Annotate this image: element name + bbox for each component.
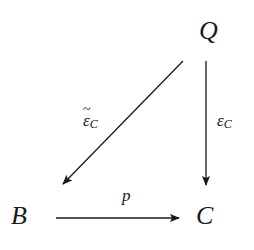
label-eps-tilde-c: ~ ε C [83,112,98,130]
subscript-c: C [224,117,232,131]
subscript-c: C [90,117,98,131]
commutative-diagram: Q B C ~ ε C εC p [0,0,254,250]
epsilon-symbol: ε [217,111,224,130]
tilde-accent: ~ [83,103,91,117]
tilde-epsilon: ~ ε [83,112,90,129]
node-c: C [196,203,213,229]
arrow-q-to-b [63,61,183,184]
label-p: p [122,187,131,204]
node-q: Q [199,18,218,44]
label-eps-c: εC [217,112,232,130]
node-b: B [11,203,27,229]
